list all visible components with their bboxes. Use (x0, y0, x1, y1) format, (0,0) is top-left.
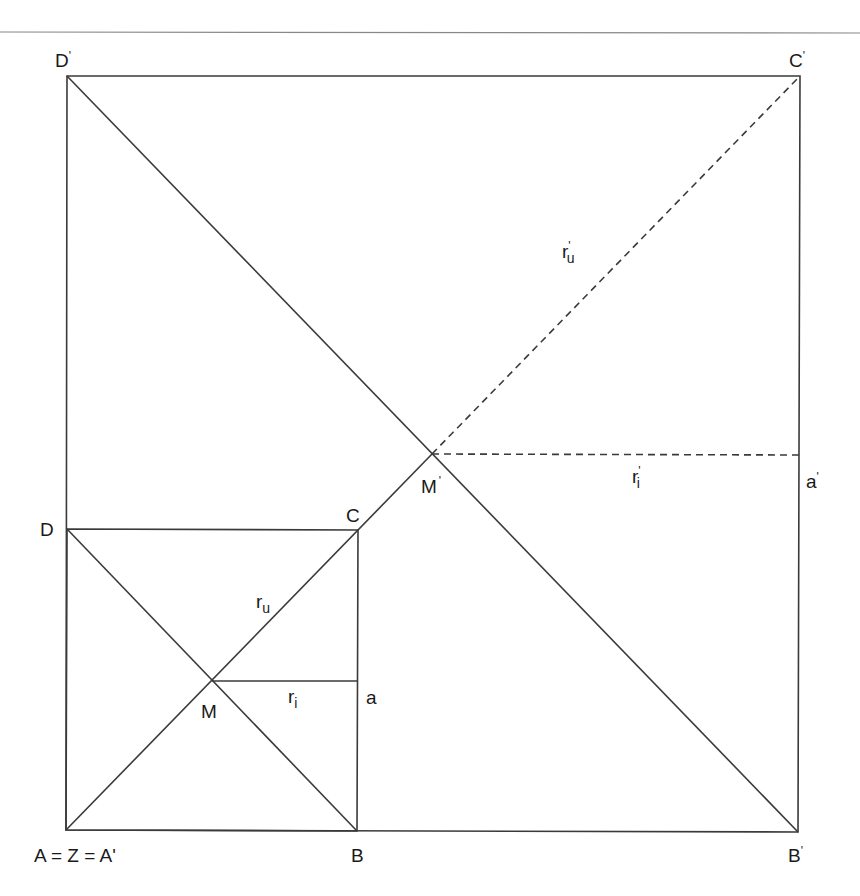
diagonal-a-m-prime (66, 454, 432, 830)
label-d-prime: D' (55, 49, 71, 71)
top-rule (0, 32, 860, 33)
label-a: A = Z = A' (34, 845, 116, 866)
geometry-diagram: D' C' A = Z = A' B B' D C M M' ri a ru r… (0, 0, 860, 896)
label-m: M (201, 701, 217, 722)
label-a-prime: a' (806, 470, 819, 492)
label-b-prime: B' (788, 844, 803, 866)
label-c: C (346, 505, 360, 526)
label-d: D (40, 519, 54, 540)
label-r-u: ru (256, 591, 270, 616)
label-r-i-prime: r'i (632, 464, 641, 491)
label-c-prime: C' (789, 49, 805, 71)
r-u-prime-segment (432, 76, 800, 454)
label-m-prime: M' (421, 474, 441, 497)
inner-diagonal-d-b (67, 529, 357, 831)
label-a-side: a (366, 687, 377, 708)
label-r-i: ri (288, 686, 297, 711)
label-b: B (351, 845, 364, 866)
r-i-prime-segment (432, 454, 799, 455)
label-r-u-prime: r'u (562, 239, 574, 266)
